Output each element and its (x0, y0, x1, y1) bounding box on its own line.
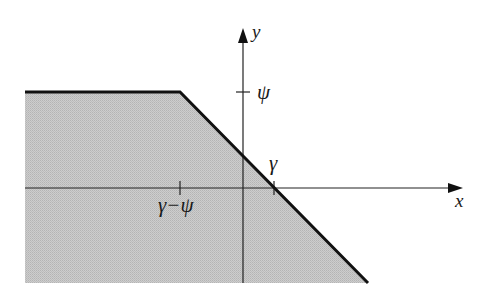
x-intercept-label-gamma: γ (269, 151, 278, 175)
x-tick-label-gamma-minus-psi: γ−ψ (158, 193, 194, 217)
y-axis-label: y (250, 21, 261, 42)
x-axis-label: x (454, 190, 464, 211)
y-axis-arrow-icon (238, 28, 248, 43)
y-tick-label-psi: ψ (257, 80, 271, 104)
diagram-figure: y x ψ γ γ−ψ (0, 0, 484, 297)
